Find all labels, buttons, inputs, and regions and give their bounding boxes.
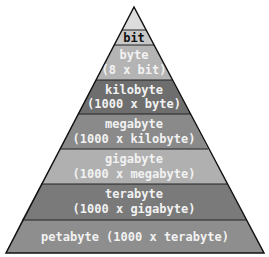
label-petabyte: petabyte (1000 x terabyte) [41, 230, 229, 244]
label-gigabyte-def: (1000 x megabyte) [73, 167, 196, 181]
label-bit: bit [123, 31, 145, 45]
label-megabyte: megabyte [105, 117, 163, 131]
label-terabyte-def: (1000 x gigabyte) [73, 202, 196, 216]
label-gigabyte: gigabyte [105, 152, 163, 166]
label-terabyte: terabyte [105, 187, 163, 201]
data-unit-pyramid: bit byte (8 x bit) kilobyte (1000 x byte… [0, 0, 269, 257]
label-byte: byte [120, 48, 149, 62]
label-kilobyte-def: (1000 x byte) [87, 97, 181, 111]
label-byte-def: (8 x bit) [101, 63, 166, 77]
label-kilobyte: kilobyte [105, 83, 163, 97]
label-megabyte-def: (1000 x kilobyte) [73, 132, 196, 146]
pyramid-apex [122, 7, 146, 30]
